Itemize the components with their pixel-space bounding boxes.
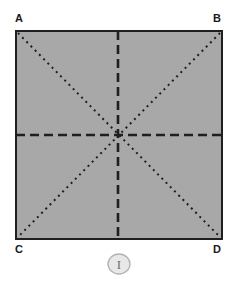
step-badge: I	[108, 254, 130, 274]
origami-fold-diagram: A B C D I	[0, 0, 240, 286]
step-badge-label: I	[117, 257, 121, 272]
diagram-canvas: I	[0, 0, 240, 286]
